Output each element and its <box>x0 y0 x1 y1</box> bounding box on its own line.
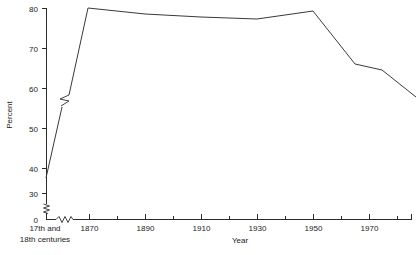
y-tick-label-80: 80 <box>29 5 38 14</box>
x-category-label-line2: 18th centuries <box>20 235 70 244</box>
x-tick-label-1910: 1910 <box>193 224 211 233</box>
x-tick-label-1970: 1970 <box>361 224 379 233</box>
chart-container: 80 70 60 50 40 30 0 Percent <box>0 0 418 255</box>
line-chart: 80 70 60 50 40 30 0 Percent <box>0 0 418 255</box>
x-category-label-line1: 17th and <box>29 224 60 233</box>
x-tick-label-1870: 1870 <box>81 224 99 233</box>
y-axis-break-icon <box>44 204 50 214</box>
x-axis: 1870 1890 1910 1930 1950 1970 17th and 1… <box>20 214 412 245</box>
x-axis-title: Year <box>232 236 249 245</box>
y-axis: 80 70 60 50 40 30 0 Percent <box>5 5 50 225</box>
y-tick-label-60: 60 <box>29 85 38 94</box>
y-tick-label-30: 30 <box>29 190 38 199</box>
series-line-segment-main <box>69 8 416 97</box>
x-tick-label-1950: 1950 <box>305 224 323 233</box>
y-tick-label-70: 70 <box>29 45 38 54</box>
data-series-percent <box>46 8 416 178</box>
series-line-segment-early <box>46 107 62 178</box>
x-tick-label-1930: 1930 <box>249 224 267 233</box>
x-tick-label-1890: 1890 <box>137 224 155 233</box>
x-axis-break-icon <box>56 217 73 223</box>
series-break-icon <box>60 95 69 106</box>
y-tick-label-40: 40 <box>29 165 38 174</box>
y-tick-label-50: 50 <box>29 125 38 134</box>
y-axis-title: Percent <box>5 100 14 128</box>
